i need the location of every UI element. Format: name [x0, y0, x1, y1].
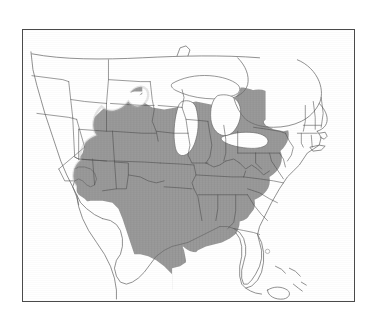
map-frame [22, 29, 355, 302]
lake-okeechobee [265, 249, 269, 253]
clipped-text-above-figure [0, 0, 380, 12]
map-svg [23, 30, 354, 301]
figure-root: Outline map of the continental United St… [0, 0, 380, 323]
